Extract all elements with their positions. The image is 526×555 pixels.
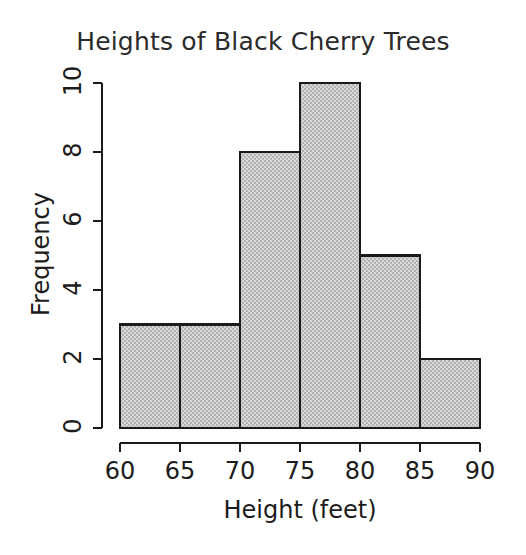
x-tick-label: 75 — [270, 457, 330, 485]
y-tick-label: 0 — [59, 410, 87, 442]
histogram-bar — [120, 325, 180, 429]
bars-group — [120, 83, 480, 428]
x-tick-label: 80 — [330, 457, 390, 485]
y-tick-label: 2 — [59, 341, 87, 373]
y-tick-label: 6 — [59, 203, 87, 235]
histogram-bar — [240, 152, 300, 428]
y-tick-label: 10 — [59, 65, 87, 97]
x-axis-title: Height (feet) — [120, 496, 480, 524]
x-tick-label: 60 — [90, 457, 150, 485]
y-tick-label: 4 — [59, 272, 87, 304]
y-tick-label: 8 — [59, 134, 87, 166]
x-tick-label: 90 — [450, 457, 510, 485]
histogram-bar — [360, 256, 420, 429]
x-tick-label: 85 — [390, 457, 450, 485]
histogram-bar — [420, 359, 480, 428]
y-axis-title: Frequency — [26, 81, 54, 426]
x-tick-label: 65 — [150, 457, 210, 485]
histogram-bar — [180, 325, 240, 429]
x-tick-label: 70 — [210, 457, 270, 485]
histogram-figure: Heights of Black Cherry Trees 0246810 60… — [0, 0, 526, 555]
histogram-bar — [300, 83, 360, 428]
